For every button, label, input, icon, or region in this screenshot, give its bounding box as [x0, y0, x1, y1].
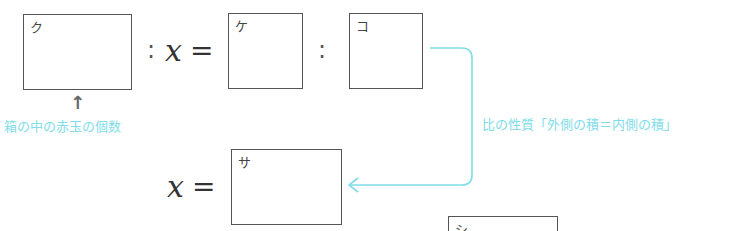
answer-box-shi[interactable]: シ — [448, 216, 558, 231]
variable-x-2: x — [167, 172, 184, 202]
answer-box-sa[interactable]: サ — [231, 149, 342, 225]
box-label-shi: シ — [455, 219, 468, 231]
annotation-ratio-property: 比の性質「外側の積＝内側の積」 — [482, 114, 677, 133]
equals-sign-2: = — [192, 172, 215, 202]
box-label-sa: サ — [238, 152, 251, 171]
